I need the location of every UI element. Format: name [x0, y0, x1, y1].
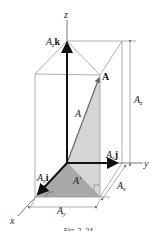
magnitude-label: A — [74, 108, 82, 119]
x-axis-label: x — [9, 215, 15, 226]
ax-i-label: Axi — [36, 172, 49, 184]
figure-caption: Fig. 2–24 — [64, 227, 93, 231]
resultant-label: A — [102, 71, 110, 82]
y-axis-label: y — [143, 158, 149, 169]
ay-j-label: Ayj — [105, 149, 118, 161]
z-axis-label: z — [63, 9, 68, 20]
vector-components-diagram: z y x A A A′ Azk Ayj Axi Az Ax Ay Fig. 2… — [0, 0, 161, 231]
dim-z-label: Az — [133, 94, 143, 106]
projection-label: A′ — [72, 175, 82, 186]
az-k-label: Azk — [45, 36, 60, 48]
dim-x-label: Ax — [116, 180, 126, 192]
